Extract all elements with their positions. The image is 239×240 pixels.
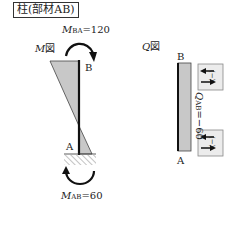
sign-bottom-text: (−) [208,136,216,147]
moment-area-bottom [79,126,92,154]
node-a-label: A [66,141,73,153]
shear-bar [178,63,191,151]
moment-bottom-label: MAB=60 [61,190,103,203]
q-node-a-label: A [177,155,184,167]
q-node-b-label: B [177,51,184,63]
fixed-support-hatch [64,155,96,165]
m-diagram-label: M図 [35,43,55,55]
node-b-label: B [85,62,92,74]
shear-value-label: QAB=−60 [194,92,205,140]
moment-arrow-top [66,44,93,56]
sign-top-text: (−) [208,70,216,81]
moment-area-top [50,61,79,126]
moment-arrow-bottom [66,171,94,184]
q-diagram-label: Q図 [142,41,160,53]
moment-top-label: MBA=120 [62,24,110,37]
